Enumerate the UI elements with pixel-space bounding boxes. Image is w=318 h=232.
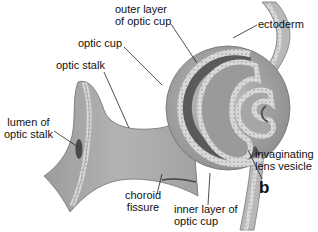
- label-lumen-of-optic-stalk: lumen of optic stalk: [4, 116, 53, 140]
- label-line: lens vesicle: [255, 160, 314, 172]
- label-optic-stalk: optic stalk: [56, 59, 105, 71]
- label-line: outer layer: [115, 3, 171, 15]
- lumen-shape: [76, 139, 83, 159]
- label-inner-layer-of-optic-cup: inner layer of optic cup: [174, 203, 238, 227]
- label-line: invaginating: [255, 148, 314, 160]
- label-outer-layer-of-optic-cup: outer layer of optic cup: [115, 3, 171, 27]
- optic-cup-diagram: outer layer of optic cup optic cup optic…: [0, 0, 318, 232]
- label-optic-cup: optic cup: [78, 37, 122, 49]
- label-line: of optic cup: [115, 15, 171, 27]
- label-ectoderm: ectoderm: [258, 18, 304, 30]
- label-line: fissure: [125, 201, 161, 213]
- label-line: inner layer of: [174, 203, 238, 215]
- label-choroid-fissure: choroid fissure: [125, 189, 161, 213]
- label-invaginating-lens-vesicle: invaginating lens vesicle: [255, 148, 314, 172]
- label-line: optic cup: [174, 215, 238, 227]
- panel-letter: b: [259, 178, 269, 198]
- label-line: optic stalk: [4, 128, 53, 140]
- label-line: choroid: [125, 189, 161, 201]
- label-line: lumen of: [4, 116, 53, 128]
